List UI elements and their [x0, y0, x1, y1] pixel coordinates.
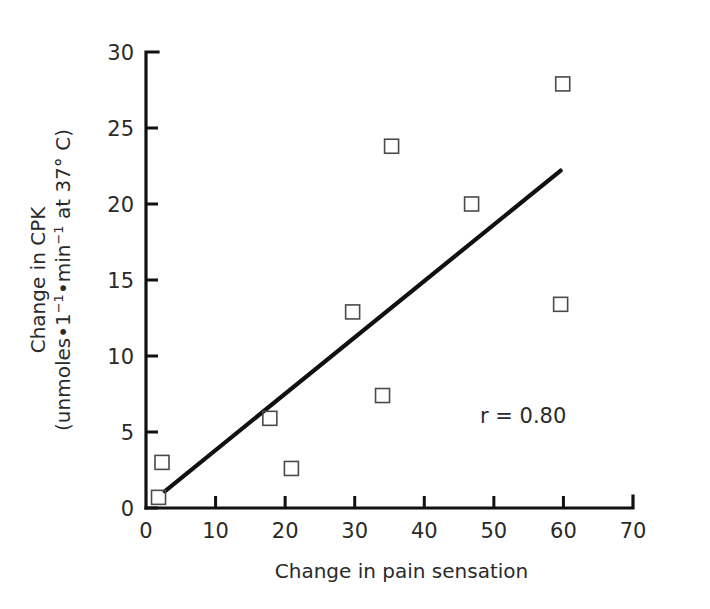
y-tick-label: 0 [121, 497, 134, 521]
x-tick-label: 10 [202, 519, 229, 543]
y-tick-label: 20 [107, 193, 134, 217]
y-axis-title-line2: (unmoles•1−1•min−1 at 37° C) [51, 129, 76, 431]
x-axis-ticks: 010203040506070 [139, 496, 646, 543]
data-point-marker [465, 197, 479, 211]
x-tick-label: 60 [550, 519, 577, 543]
x-tick-label: 40 [411, 519, 438, 543]
chart-canvas: 051015202530 010203040506070 r = 0.80 Ch… [0, 0, 710, 609]
y-tick-label: 10 [107, 345, 134, 369]
y-axis-ticks: 051015202530 [107, 41, 158, 521]
trend-line-group [165, 171, 561, 492]
axes-group [146, 52, 633, 508]
data-points-group [152, 77, 570, 504]
data-point-marker [346, 305, 360, 319]
data-point-marker [554, 297, 568, 311]
data-point-marker [284, 461, 298, 475]
data-point-marker [385, 139, 399, 153]
correlation-annotation: r = 0.80 [480, 404, 566, 428]
y-tick-label: 30 [107, 41, 134, 65]
data-point-marker [376, 389, 390, 403]
regression-line [165, 171, 561, 492]
y-tick-label: 5 [121, 421, 134, 445]
data-point-marker [263, 411, 277, 425]
y-tick-label: 25 [107, 117, 134, 141]
y-tick-label: 15 [107, 269, 134, 293]
x-tick-label: 50 [480, 519, 507, 543]
x-axis-line [146, 496, 633, 508]
data-point-marker [556, 77, 570, 91]
x-tick-label: 20 [272, 519, 299, 543]
x-axis-title: Change in pain sensation [275, 559, 528, 583]
y-axis-title-line1: Change in CPK [26, 206, 50, 354]
x-tick-label: 0 [139, 519, 152, 543]
x-tick-label: 30 [341, 519, 368, 543]
x-tick-label: 70 [620, 519, 647, 543]
scatter-plot-figure: 051015202530 010203040506070 r = 0.80 Ch… [0, 0, 710, 609]
data-point-marker [155, 455, 169, 469]
